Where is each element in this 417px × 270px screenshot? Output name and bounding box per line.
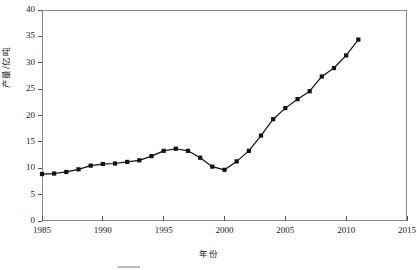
y-tick-label: 35 <box>26 29 35 42</box>
x-tick-label: 2000 <box>208 224 242 236</box>
y-tick-mark <box>38 62 42 63</box>
y-tick-label: 30 <box>26 56 35 69</box>
y-tick-label: 15 <box>26 135 35 148</box>
y-tick-label: 5 <box>31 188 36 201</box>
y-tick-mark <box>38 36 42 37</box>
x-tick-mark <box>224 216 225 221</box>
y-tick-mark <box>38 10 42 11</box>
y-tick-mark <box>38 194 42 195</box>
y-tick-label: 40 <box>26 3 35 16</box>
y-axis-title: 产量/亿吨 <box>0 8 11 88</box>
x-tick-label: 2005 <box>268 224 302 236</box>
y-tick-mark <box>38 89 42 90</box>
y-tick-mark <box>38 168 42 169</box>
y-tick-label: 25 <box>26 82 35 95</box>
x-tick-label: 1995 <box>147 224 181 236</box>
x-tick-mark <box>407 216 408 221</box>
x-tick-mark <box>346 216 347 221</box>
x-tick-label: 2010 <box>329 224 363 236</box>
x-tick-mark <box>42 216 43 221</box>
caption-rule <box>118 266 140 268</box>
y-tick-mark <box>38 141 42 142</box>
y-tick-label: 10 <box>26 161 35 174</box>
y-tick-label: 20 <box>26 109 35 122</box>
x-axis-title: 年份 <box>0 247 417 259</box>
plot-area <box>42 10 407 221</box>
x-tick-mark <box>163 216 164 221</box>
chart-figure: 0510152025303540 产量/亿吨 19851990199520002… <box>0 0 417 270</box>
y-tick-mark <box>38 115 42 116</box>
x-tick-label: 1985 <box>25 224 59 236</box>
x-tick-label: 2015 <box>390 224 417 236</box>
x-tick-mark <box>102 216 103 221</box>
x-tick-label: 1990 <box>86 224 120 236</box>
x-tick-mark <box>285 216 286 221</box>
